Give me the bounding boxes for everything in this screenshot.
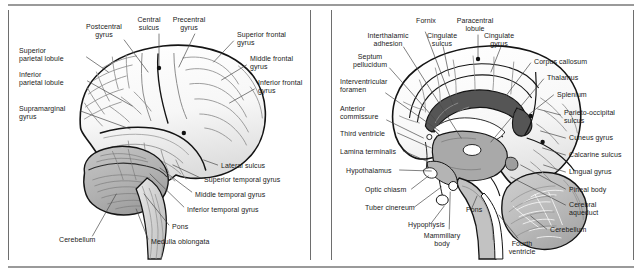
mammillary-body-shape xyxy=(449,182,458,191)
marker-dot-central-sulcus xyxy=(157,66,161,70)
interthalamic-adhesion-shape xyxy=(463,145,481,156)
midsagittal-brain-illustration xyxy=(332,10,633,260)
lateral-brain-view-panel: Postcentral gyrusCentral sulcusPrecentra… xyxy=(8,10,311,260)
brain-anatomy-figure: Postcentral gyrusCentral sulcusPrecentra… xyxy=(0,0,642,276)
figure-bottom-rule xyxy=(8,266,634,268)
lateral-brain-illustration xyxy=(9,10,310,260)
figure-top-rule xyxy=(8,4,634,6)
pineal-body-shape xyxy=(505,157,518,170)
anterior-commissure-shape xyxy=(427,134,432,139)
marker-dot-paracentral-lobule xyxy=(476,57,480,61)
marker-dot-parieto-occipital xyxy=(528,114,532,118)
midsagittal-brain-view-panel: FornixParacentral lobuleInterthalamic ad… xyxy=(331,10,634,260)
marker-dot-cuneus xyxy=(540,140,544,144)
optic-chiasm-shape xyxy=(423,168,437,178)
hypophysis-shape xyxy=(436,195,448,205)
marker-dot-lateral-sulcus xyxy=(182,131,186,135)
